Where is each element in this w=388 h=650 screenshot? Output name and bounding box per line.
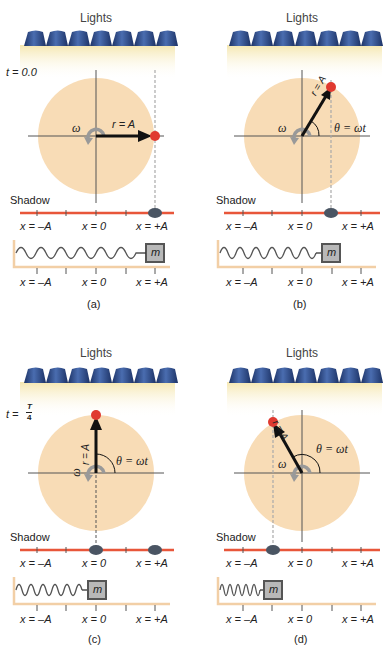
lights-label: Lights (286, 11, 318, 25)
time-label-prefix: t = (6, 408, 19, 420)
light-beam (20, 45, 175, 80)
lamps-icon (24, 31, 178, 47)
time-label: t = 0.0 (6, 66, 37, 78)
panel-b: Lights ω r = A θ = ωt Shadow x = –A x = … (194, 0, 388, 325)
lights-label: Lights (286, 346, 318, 360)
shadow-tick-neg: x = –A (226, 557, 258, 569)
time-numerator: T (27, 402, 32, 411)
spring-tick-neg: x = –A (226, 276, 258, 288)
spring-tick-pos: x = +A (136, 276, 168, 288)
omega-label: ω (69, 468, 84, 476)
spring (16, 248, 140, 259)
shadow-tick-pos: x = +A (342, 220, 374, 232)
shadow-blob (324, 208, 338, 218)
shadow-tick-neg: x = –A (226, 220, 258, 232)
radius-label: r = A (80, 444, 91, 465)
mass-label: m (93, 583, 102, 595)
shadow-tick-zero: x = 0 (82, 557, 106, 569)
panel-a: Lights t = 0.0 ω r = A Shadow x = –A x =… (0, 0, 194, 325)
angle-label: θ = ωt (116, 454, 148, 469)
panel-d-diagram (194, 330, 388, 650)
light-beam (227, 382, 382, 417)
spring (220, 585, 260, 596)
rotating-ball (150, 131, 160, 141)
caption: (b) (293, 298, 306, 310)
shadow-tick-pos: x = +A (136, 220, 168, 232)
spring-tick-neg: x = –A (20, 613, 52, 625)
spring (16, 585, 82, 596)
mass-label: m (269, 583, 278, 595)
mass-label: m (151, 246, 160, 258)
lamps-icon (229, 368, 383, 384)
shadow-blob (148, 208, 162, 218)
shadow-tick-zero: x = 0 (82, 220, 106, 232)
spring-tick-pos: x = +A (342, 276, 374, 288)
spring-tick-pos: x = +A (136, 613, 168, 625)
shadow-blob-ghost (148, 545, 162, 555)
shadow-tick-pos: x = +A (136, 557, 168, 569)
panel-d: Lights ω r = A θ = ωt Shadow x = –A x = … (194, 330, 388, 650)
caption: (c) (88, 633, 101, 645)
mass-label: m (327, 246, 336, 258)
spring-tick-neg: x = –A (226, 613, 258, 625)
wall-floor (218, 240, 376, 267)
shadow-tick-zero: x = 0 (288, 220, 312, 232)
lamps-icon (229, 31, 383, 47)
lights-label: Lights (80, 11, 112, 25)
spring-tick-zero: x = 0 (82, 276, 106, 288)
angle-label: θ = ωt (334, 121, 366, 136)
spring-tick-zero: x = 0 (82, 613, 106, 625)
rotating-ball (91, 410, 101, 420)
panel-c: Lights t = T 4 ω r = A θ = ωt Shadow x =… (0, 330, 194, 650)
omega-label: ω (72, 121, 80, 136)
caption: (d) (294, 633, 307, 645)
shadow-tick-pos: x = +A (342, 557, 374, 569)
shadow-label: Shadow (10, 531, 50, 543)
omega-label: ω (278, 457, 286, 472)
shadow-tick-neg: x = –A (20, 220, 52, 232)
spring (220, 248, 316, 259)
omega-label: ω (278, 121, 286, 136)
spring-tick-pos: x = +A (342, 613, 374, 625)
angle-label: θ = ωt (316, 442, 348, 457)
rotating-ball (326, 82, 336, 92)
shadow-blob (89, 545, 103, 555)
wall-floor (218, 577, 376, 604)
radius-label: r = A (112, 118, 135, 130)
time-denominator: 4 (26, 412, 32, 422)
shadow-blob (266, 545, 280, 555)
lights-label: Lights (80, 346, 112, 360)
shadow-tick-neg: x = –A (20, 557, 52, 569)
caption: (a) (87, 298, 100, 310)
shadow-tick-zero: x = 0 (288, 557, 312, 569)
light-beam (227, 45, 382, 80)
spring-tick-zero: x = 0 (288, 613, 312, 625)
spring-tick-zero: x = 0 (288, 276, 312, 288)
panel-c-diagram (0, 330, 194, 650)
shadow-label: Shadow (216, 194, 256, 206)
shadow-label: Shadow (216, 531, 256, 543)
spring-tick-neg: x = –A (20, 276, 52, 288)
shadow-label: Shadow (10, 194, 50, 206)
lamps-icon (24, 368, 178, 384)
